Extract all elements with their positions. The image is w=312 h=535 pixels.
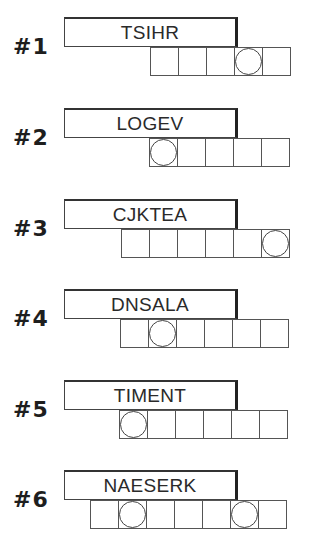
answer-cells — [90, 500, 287, 529]
scrambled-word: CJKTEA — [113, 204, 188, 225]
jumble-puzzle-6: #6 NAESERK — [0, 470, 312, 535]
scrambled-word-box: NAESERK — [64, 470, 238, 500]
answer-cell[interactable] — [174, 500, 203, 529]
answer-cell[interactable] — [203, 410, 232, 439]
answer-cell-circled[interactable] — [119, 410, 148, 439]
puzzle-number: #4 — [13, 306, 49, 331]
answer-cell[interactable] — [258, 500, 287, 529]
answer-cell[interactable] — [120, 319, 149, 348]
scrambled-word-box: CJKTEA — [64, 199, 238, 229]
jumble-puzzle-4: #4 DNSALA — [0, 289, 312, 369]
puzzle-number: #6 — [13, 487, 49, 512]
answer-cells — [149, 138, 290, 167]
jumble-puzzle-3: #3 CJKTEA — [0, 199, 312, 279]
answer-cell[interactable] — [149, 229, 178, 258]
answer-cells — [120, 319, 289, 348]
answer-cell-circled[interactable] — [261, 229, 290, 258]
answer-cell[interactable] — [262, 47, 291, 76]
answer-cell[interactable] — [206, 47, 235, 76]
jumble-puzzle-5: #5 TIMENT — [0, 380, 312, 460]
circle-marker-icon — [262, 230, 289, 257]
scrambled-word: TSIHR — [121, 22, 180, 43]
answer-cell-circled[interactable] — [118, 500, 147, 529]
answer-cell[interactable] — [177, 229, 206, 258]
circle-marker-icon — [120, 411, 147, 438]
answer-cell[interactable] — [232, 319, 261, 348]
answer-cell[interactable] — [147, 410, 176, 439]
puzzle-number: #5 — [13, 397, 49, 422]
scrambled-word-box: TSIHR — [64, 17, 238, 47]
answer-cell[interactable] — [204, 319, 233, 348]
answer-cell[interactable] — [150, 47, 179, 76]
answer-cell[interactable] — [231, 410, 260, 439]
answer-cell[interactable] — [177, 138, 206, 167]
circle-marker-icon — [150, 139, 177, 166]
answer-cell[interactable] — [205, 229, 234, 258]
scrambled-word-box: LOGEV — [64, 108, 238, 138]
scrambled-word: NAESERK — [104, 475, 197, 496]
answer-cells — [119, 410, 288, 439]
answer-cell-circled[interactable] — [230, 500, 259, 529]
answer-cell-circled[interactable] — [234, 47, 263, 76]
answer-cell[interactable] — [176, 319, 205, 348]
answer-cells — [150, 47, 291, 76]
answer-cell[interactable] — [233, 229, 262, 258]
answer-cell[interactable] — [146, 500, 175, 529]
scrambled-word: DNSALA — [111, 294, 189, 315]
answer-cell[interactable] — [259, 410, 288, 439]
jumble-puzzle-1: #1 TSIHR — [0, 17, 312, 97]
answer-cell[interactable] — [261, 138, 290, 167]
circle-marker-icon — [235, 48, 262, 75]
answer-cell[interactable] — [202, 500, 231, 529]
scrambled-word: TIMENT — [114, 385, 187, 406]
answer-cell[interactable] — [121, 229, 150, 258]
answer-cell[interactable] — [175, 410, 204, 439]
answer-cell[interactable] — [178, 47, 207, 76]
jumble-puzzle-2: #2 LOGEV — [0, 108, 312, 188]
answer-cells — [121, 229, 290, 258]
puzzle-number: #3 — [13, 216, 49, 241]
circle-marker-icon — [149, 320, 176, 347]
circle-marker-icon — [119, 501, 146, 528]
puzzle-number: #1 — [13, 34, 49, 59]
answer-cell[interactable] — [260, 319, 289, 348]
answer-cell-circled[interactable] — [149, 138, 178, 167]
scrambled-word-box: DNSALA — [64, 289, 238, 319]
puzzle-number: #2 — [13, 125, 49, 150]
scrambled-word-box: TIMENT — [64, 380, 238, 410]
answer-cell-circled[interactable] — [148, 319, 177, 348]
answer-cell[interactable] — [233, 138, 262, 167]
answer-cell[interactable] — [205, 138, 234, 167]
circle-marker-icon — [231, 501, 258, 528]
scrambled-word: LOGEV — [117, 113, 184, 134]
answer-cell[interactable] — [90, 500, 119, 529]
